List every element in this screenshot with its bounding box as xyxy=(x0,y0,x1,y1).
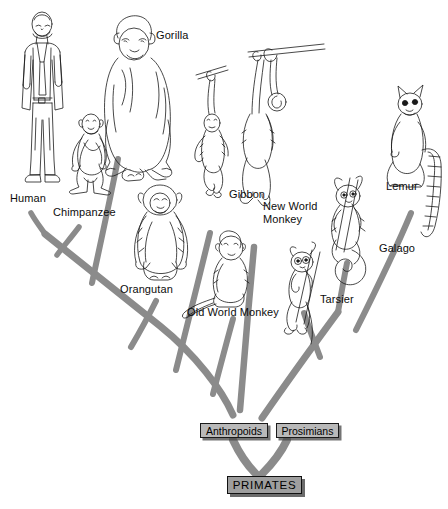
root-box-primates: PRIMATES xyxy=(227,476,302,494)
taxon-label-human: Human xyxy=(10,192,46,205)
taxon-label-orangutan: Orangutan xyxy=(120,283,173,296)
labels-layer: Human Chimpanzee Gorilla Orangutan Gibbo… xyxy=(0,0,448,509)
taxon-label-new-world-monkey: New World Monkey xyxy=(263,200,318,225)
taxon-label-gorilla: Gorilla xyxy=(156,29,189,42)
taxon-label-galago: Galago xyxy=(379,242,415,255)
primate-phylogenetic-tree-figure: Human Chimpanzee Gorilla Orangutan Gibbo… xyxy=(0,0,448,509)
taxon-label-gibbon: Gibbon xyxy=(229,188,265,201)
taxon-label-tarsier: Tarsier xyxy=(320,293,354,306)
taxon-label-lemur: Lemur xyxy=(386,180,418,193)
taxon-label-old-world-monkey: Old World Monkey xyxy=(187,306,279,319)
clade-box-anthropoids: Anthropoids xyxy=(200,423,268,438)
taxon-label-chimpanzee: Chimpanzee xyxy=(53,206,116,219)
clade-box-prosimians: Prosimians xyxy=(276,423,339,438)
